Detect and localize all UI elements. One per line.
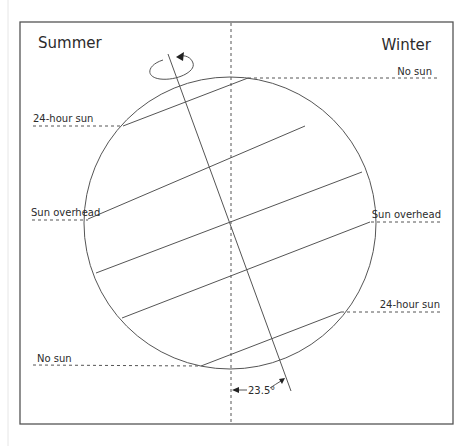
rotation-axis	[168, 54, 291, 391]
no-sun-bottom-label: No sun	[37, 353, 72, 364]
tilt-arrow-left-icon	[232, 387, 239, 393]
sun-overhead-right-label: Sun overhead	[372, 209, 441, 220]
tilt-arrow-right-icon	[279, 378, 285, 384]
winter-label: Winter	[382, 36, 432, 54]
summer-label: Summer	[38, 34, 102, 52]
24-hour-sun-right-label: 24-hour sun	[380, 299, 440, 310]
tropic-of-cancer-line	[88, 126, 305, 219]
24-hour-sun-left-label: 24-hour sun	[33, 113, 93, 124]
tilt-angle-indicator: 23.5°	[232, 378, 285, 396]
antarctic-circle-line	[201, 312, 341, 366]
tropic-of-capricorn-line	[122, 222, 370, 318]
sun-overhead-left-label: Sun overhead	[31, 207, 100, 218]
earth-tilt-diagram: Summer Winter No sun 24-hour sun Sun ove…	[0, 0, 473, 446]
no-sun-bottom-leader	[33, 365, 201, 366]
no-sun-top-label: No sun	[397, 66, 432, 77]
rotation-arrow-icon	[150, 52, 194, 79]
